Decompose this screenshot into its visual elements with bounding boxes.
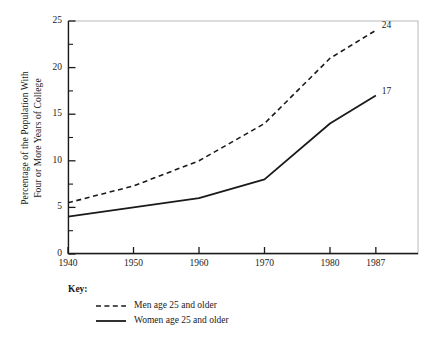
chart-legend: Key: Men age 25 and older Women age 25 a… <box>68 283 368 328</box>
data-label-women-1987: 17 <box>382 87 392 97</box>
x-axis-tick-labels: 194019501960197019801987 <box>68 258 418 272</box>
chart-figure: Percentage of the Population With Four o… <box>0 0 443 340</box>
plot-canvas <box>68 21 418 254</box>
series-line-men <box>68 30 376 202</box>
series-line-women <box>68 96 376 217</box>
plot-border <box>68 21 418 254</box>
x-tick-label-1960: 1960 <box>179 258 219 269</box>
legend-label-men: Men age 25 and older <box>126 300 217 311</box>
y-axis-title-line-1: Percentage of the Population With <box>19 71 32 205</box>
x-tick-label-1950: 1950 <box>114 258 154 269</box>
y-tick-label-20: 20 <box>40 63 62 73</box>
plot-area: 24 17 <box>68 21 418 254</box>
dashed-line-icon <box>96 301 126 311</box>
y-tick-label-5: 5 <box>40 203 62 213</box>
legend-item-women: Women age 25 and older <box>68 313 368 328</box>
x-tick-label-1970: 1970 <box>245 258 285 269</box>
y-tick-label-15: 15 <box>40 109 62 119</box>
x-tick-label-1940: 1940 <box>48 258 88 269</box>
legend-title: Key: <box>68 283 368 295</box>
y-tick-label-25: 25 <box>40 16 62 26</box>
y-axis-tick-labels: 0510152025 <box>40 21 62 254</box>
legend-label-women: Women age 25 and older <box>126 315 229 326</box>
axis-ticks <box>68 21 376 254</box>
axes-frame <box>68 21 418 254</box>
y-tick-label-10: 10 <box>40 156 62 166</box>
legend-item-men: Men age 25 and older <box>68 298 368 313</box>
x-tick-label-1987: 1987 <box>356 258 396 269</box>
x-tick-label-1980: 1980 <box>310 258 350 269</box>
data-series-layer <box>68 30 376 216</box>
solid-line-icon <box>96 316 126 326</box>
data-label-men-1987: 24 <box>382 21 392 31</box>
